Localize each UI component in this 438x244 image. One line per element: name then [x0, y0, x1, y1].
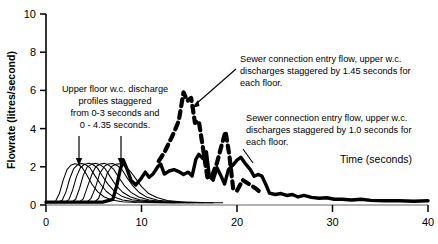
x-tick-label: 10 — [135, 216, 147, 228]
x-tick-label: 0 — [43, 216, 49, 228]
annotation-upper-floor-line-3: from 0-3 seconds and — [71, 108, 160, 118]
chart-canvas: 0246810 010203040 Flowrate (litres/secon… — [0, 0, 438, 244]
annotation-upper-floor-line-2: profiles staggered — [78, 96, 151, 106]
annotation-upper-floor-line-1: Upper floor w.c. discharge — [62, 84, 168, 94]
annotation-sewer-145-line-2: discharges staggered by 1.45 seconds for — [240, 66, 411, 76]
y-axis-ticks — [40, 14, 46, 205]
x-axis-tick-labels: 010203040 — [43, 216, 434, 228]
y-tick-label: 6 — [30, 84, 36, 96]
x-axis-ticks — [46, 205, 428, 212]
annotation-sewer-145-line-1: Sewer connection entry flow, upper w.c. — [240, 54, 401, 64]
y-tick-label: 2 — [30, 161, 36, 173]
y-tick-label: 8 — [30, 46, 36, 58]
annotation-sewer-145-leader-icon — [192, 69, 236, 108]
annotation-upper-floor: Upper floor w.c. discharge profiles stag… — [62, 84, 168, 166]
y-tick-label: 10 — [24, 8, 36, 20]
x-tick-label: 30 — [326, 216, 338, 228]
annotation-sewer-145-line-3: each floor. — [240, 78, 282, 88]
annotation-upper-floor-line-4: 0 - 4.35 seconds. — [80, 120, 150, 130]
annotation-sewer-10-line-1: Sewer connection entry flow, upper w.c. — [246, 113, 407, 123]
y-axis-title: Flowrate (litres/second) — [5, 51, 17, 169]
x-tick-label: 20 — [231, 216, 243, 228]
y-tick-label: 4 — [30, 123, 36, 135]
flowrate-time-chart: 0246810 010203040 Flowrate (litres/secon… — [0, 0, 438, 244]
annotation-arrow-left-icon — [76, 136, 82, 166]
annotation-sewer-145: Sewer connection entry flow, upper w.c. … — [192, 54, 411, 108]
x-tick-label: 40 — [422, 216, 434, 228]
x-axis-title: Time (seconds) — [340, 153, 412, 165]
annotation-sewer-10-line-2: discharges staggered by 1.0 seconds for — [246, 125, 411, 135]
y-axis-tick-labels: 0246810 — [24, 8, 36, 211]
y-tick-label: 0 — [30, 199, 36, 211]
annotation-sewer-10-line-3: each floor. — [246, 137, 288, 147]
